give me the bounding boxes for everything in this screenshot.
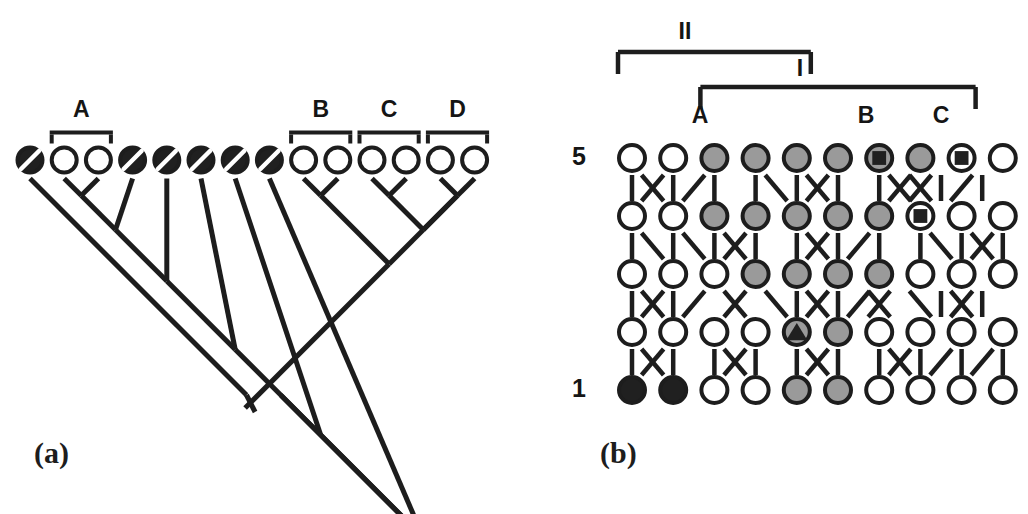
node-circle [619, 145, 645, 171]
tip-node-4 [120, 148, 145, 173]
grid-node-r1-c3 [701, 377, 727, 403]
node-circle [701, 261, 727, 287]
branch-tip-3 [81, 179, 98, 196]
bracket-label-I: I [797, 55, 803, 82]
grid-node-r4-c7 [866, 203, 892, 229]
node-circle [784, 203, 810, 229]
node-circle [784, 145, 810, 171]
grid-node-r5-c2 [660, 145, 686, 171]
grid-node-r4-c10 [990, 203, 1016, 229]
square-icon [872, 151, 886, 165]
tip-node-13 [428, 148, 453, 173]
connector-slash [848, 233, 870, 259]
node-circle [825, 319, 851, 345]
grid-node-r1-c10 [990, 377, 1016, 403]
tip-node-1 [18, 148, 43, 173]
node-circle [462, 148, 487, 173]
node-circle [990, 145, 1016, 171]
row-label-1: 1 [572, 374, 586, 403]
node-circle [619, 377, 645, 403]
panel-label-b: (b) [600, 436, 637, 470]
grid-node-r4-c3 [701, 203, 727, 229]
grid-node-r5-c5 [784, 145, 810, 171]
node-circle [907, 319, 933, 345]
node-circle [949, 261, 975, 287]
branch-C-r [389, 179, 406, 196]
tip-node-11 [360, 148, 385, 173]
node-circle [784, 261, 810, 287]
grid-node-r4-c6 [825, 203, 851, 229]
branch-D-l [440, 179, 457, 196]
tip-node-8 [257, 148, 282, 173]
node-circle [701, 203, 727, 229]
grid-node-r3-c5 [784, 261, 810, 287]
node-circle [743, 377, 769, 403]
square-icon [955, 151, 969, 165]
node-circle [990, 319, 1016, 345]
connector-slash [930, 349, 952, 375]
grid-node-r2-c4 [743, 319, 769, 345]
grid-node-r1-c5 [784, 377, 810, 403]
grid-node-r2-c7 [866, 319, 892, 345]
node-circle [743, 261, 769, 287]
grid-node-r3-c1 [619, 261, 645, 287]
grid-node-r2-c2 [660, 319, 686, 345]
tip-node-3 [86, 148, 111, 173]
node-circle [990, 261, 1016, 287]
node-circle [990, 377, 1016, 403]
node-circle [86, 148, 111, 173]
grid-node-r4-c9 [949, 203, 975, 229]
node-circle [743, 145, 769, 171]
grid-node-r4-c2 [660, 203, 686, 229]
node-circle [660, 319, 686, 345]
grid-node-r1-c9 [949, 377, 975, 403]
node-circle [949, 203, 975, 229]
connector-backslash [683, 233, 705, 259]
connector-slash [951, 175, 973, 201]
node-circle [660, 203, 686, 229]
branch-tip-2 [64, 179, 81, 196]
grid-node-r5-c8 [907, 145, 933, 171]
branch-CD-right2 [423, 196, 457, 230]
grid-node-r2-c3 [701, 319, 727, 345]
node-circle [825, 203, 851, 229]
grid-node-r3-c3 [701, 261, 727, 287]
tip-node-10 [325, 148, 350, 173]
node-circle [52, 148, 77, 173]
grid-node-r1-c6 [825, 377, 851, 403]
branch-D-r [458, 179, 475, 196]
grid-node-r1-c1 [619, 377, 645, 403]
grid-node-r2-c10 [990, 319, 1016, 345]
grid-node-r2-c6 [825, 319, 851, 345]
connector-backslash [930, 233, 952, 259]
node-circle [866, 203, 892, 229]
connector-slash [848, 291, 870, 317]
node-circle [428, 148, 453, 173]
tip-node-12 [394, 148, 419, 173]
node-circle [743, 203, 769, 229]
group-label-B: B [312, 96, 329, 123]
bracket-label-II: II [679, 18, 692, 45]
grid-node-r1-c2 [660, 377, 686, 403]
tip-node-2 [52, 148, 77, 173]
group-label-C: C [381, 96, 398, 123]
branch-CD-left [389, 196, 423, 230]
spine-segment [81, 196, 115, 230]
branch-B-l [304, 179, 321, 196]
grid-node-r2-c5 [784, 319, 810, 345]
node-circle [784, 377, 810, 403]
grid-node-r3-c8 [907, 261, 933, 287]
grid-node-r4-c4 [743, 203, 769, 229]
node-circle [701, 377, 727, 403]
grid-node-r3-c7 [866, 261, 892, 287]
node-circle [701, 319, 727, 345]
tip-node-5 [154, 148, 179, 173]
branch-C-l [372, 179, 389, 196]
grid-node-r5-c3 [701, 145, 727, 171]
grid-node-r3-c9 [949, 261, 975, 287]
figure-root: ABCD51IIIABC(a)(b) [0, 0, 1028, 514]
branch-CD-down [389, 230, 423, 264]
node-circle [360, 148, 385, 173]
group-label-b-B: B [858, 102, 875, 129]
connector-backslash [765, 291, 787, 317]
